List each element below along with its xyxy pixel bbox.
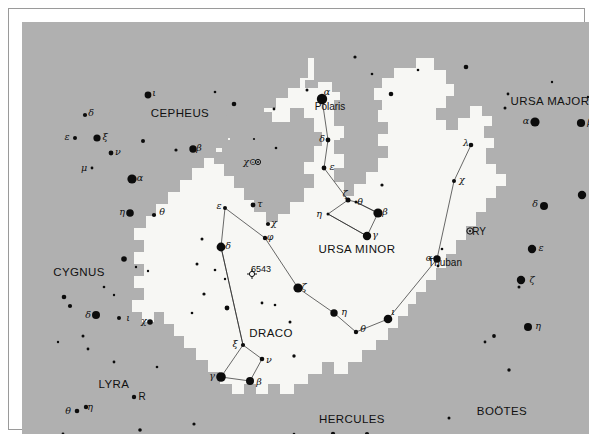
star-marker xyxy=(464,65,469,70)
star-marker xyxy=(292,354,295,357)
star-marker xyxy=(109,151,114,156)
ry-draconis-marker xyxy=(467,228,473,234)
star-marker xyxy=(327,213,330,216)
star-marker xyxy=(141,139,145,143)
star-marker xyxy=(354,330,358,334)
star-marker xyxy=(346,198,351,203)
star-marker xyxy=(135,266,137,268)
star-marker xyxy=(587,96,589,98)
star-marker xyxy=(224,278,226,280)
star-marker xyxy=(189,145,196,152)
star-marker xyxy=(73,136,77,140)
star-marker xyxy=(196,263,199,266)
star-marker xyxy=(62,433,65,434)
star-marker xyxy=(266,222,270,226)
draco-boundary-region xyxy=(132,58,506,394)
star-marker xyxy=(225,306,230,311)
star-marker xyxy=(191,312,194,315)
star-marker xyxy=(275,147,278,150)
star-marker xyxy=(145,92,152,99)
star-marker xyxy=(113,361,116,364)
star-marker xyxy=(524,323,532,331)
star-marker xyxy=(577,119,585,127)
star-marker xyxy=(289,321,292,324)
star-marker xyxy=(263,236,267,240)
star-marker xyxy=(113,294,115,296)
star-marker xyxy=(223,206,227,210)
star-marker xyxy=(384,315,393,324)
star-marker xyxy=(62,295,67,300)
star-marker xyxy=(68,304,72,308)
star-marker xyxy=(253,138,255,140)
star-marker xyxy=(578,191,586,199)
star-marker xyxy=(540,202,548,210)
star-marker xyxy=(91,167,94,170)
star-marker xyxy=(530,117,539,126)
star-marker xyxy=(355,201,358,204)
star-marker xyxy=(260,357,265,362)
star-marker xyxy=(121,256,127,262)
chart-frame: ιδξενμβαηθχ⊙ετχδφαδεζθηβγλχαζηθιξνγβαβγδ… xyxy=(8,8,585,430)
star-marker xyxy=(484,341,487,344)
star-marker xyxy=(353,55,356,58)
star-marker xyxy=(127,174,136,183)
sky-map: ιδξενμβαηθχ⊙ετχδφαδεζθηβγλχαζηθιξνγβαβγδ… xyxy=(22,22,589,434)
star-marker xyxy=(75,409,80,414)
star-marker xyxy=(246,377,254,385)
star-marker xyxy=(389,92,394,97)
star-marker xyxy=(273,108,276,111)
star-marker xyxy=(274,304,277,307)
star-marker xyxy=(174,148,177,151)
star-marker xyxy=(138,428,142,432)
star-marker xyxy=(331,432,335,434)
star-marker xyxy=(202,292,205,295)
star-marker xyxy=(363,232,371,240)
star-marker xyxy=(87,348,90,351)
star-marker xyxy=(507,368,510,371)
star-marker xyxy=(201,238,204,241)
star-marker xyxy=(373,208,382,217)
star-marker xyxy=(380,183,383,186)
star-marker xyxy=(156,366,159,369)
star-marker xyxy=(192,422,195,425)
star-marker xyxy=(528,245,536,253)
star-marker xyxy=(82,335,85,338)
star-marker xyxy=(217,243,226,252)
star-marker xyxy=(132,395,136,399)
star-marker xyxy=(293,283,302,292)
star-marker xyxy=(371,73,374,76)
star-marker xyxy=(214,269,217,272)
star-marker xyxy=(152,213,156,217)
star-marker xyxy=(551,81,553,83)
star-marker xyxy=(57,341,59,343)
star-marker xyxy=(417,69,420,72)
star-marker xyxy=(232,102,237,107)
star-marker xyxy=(214,91,217,94)
star-marker xyxy=(507,93,510,96)
star-marker xyxy=(437,265,440,268)
star-marker xyxy=(306,89,309,92)
star-marker xyxy=(518,286,521,289)
star-marker xyxy=(216,372,226,382)
star-marker xyxy=(84,405,88,409)
star-marker xyxy=(147,270,149,272)
star-chart-page: ιδξενμβαηθχ⊙ετχδφαδεζθηβγλχαζηθιξνγβαβγδ… xyxy=(0,0,595,440)
star-marker xyxy=(469,143,474,148)
star-marker xyxy=(126,209,134,217)
star-marker xyxy=(117,316,121,320)
star-marker xyxy=(326,138,331,143)
sky-map-svg xyxy=(22,22,589,434)
star-marker xyxy=(241,343,245,347)
star-marker xyxy=(441,248,444,251)
star-marker xyxy=(93,134,100,141)
star-marker xyxy=(317,94,327,104)
star-marker xyxy=(492,334,496,338)
star-marker xyxy=(433,255,440,262)
star-marker xyxy=(504,107,507,110)
star-marker xyxy=(448,417,451,420)
star-marker xyxy=(261,302,264,305)
star-marker xyxy=(251,203,256,208)
star-marker xyxy=(92,311,100,319)
star-marker xyxy=(330,309,337,316)
star-marker xyxy=(103,286,106,289)
